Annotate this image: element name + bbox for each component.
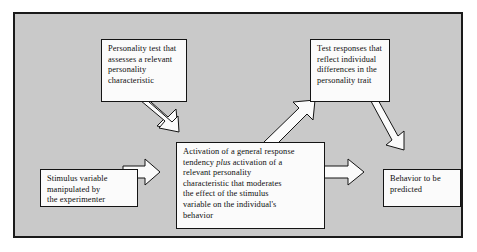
node-stimulus-variable-label: Stimulus variable manipulated by the exp… xyxy=(47,174,131,206)
node-activation: Activation of a general response tendenc… xyxy=(176,142,325,229)
node-personality-test-label: Personality test that assesses a relevan… xyxy=(108,44,180,86)
node-activation-label: Activation of a general response tendenc… xyxy=(183,147,318,221)
diagram-canvas: Personality test that assesses a relevan… xyxy=(0,0,477,252)
node-activation-label-emphasis: plus xyxy=(216,158,230,167)
node-behavior-to-be-predicted: Behavior to be predicted xyxy=(383,169,461,207)
node-stimulus-variable: Stimulus variable manipulated by the exp… xyxy=(40,169,138,207)
node-test-responses: Test responses that reflect individual d… xyxy=(310,39,390,102)
node-behavior-to-be-predicted-label: Behavior to be predicted xyxy=(390,174,454,195)
node-personality-test: Personality test that assesses a relevan… xyxy=(101,39,187,102)
node-test-responses-label: Test responses that reflect individual d… xyxy=(317,44,383,86)
diagram-frame: Personality test that assesses a relevan… xyxy=(13,12,463,238)
